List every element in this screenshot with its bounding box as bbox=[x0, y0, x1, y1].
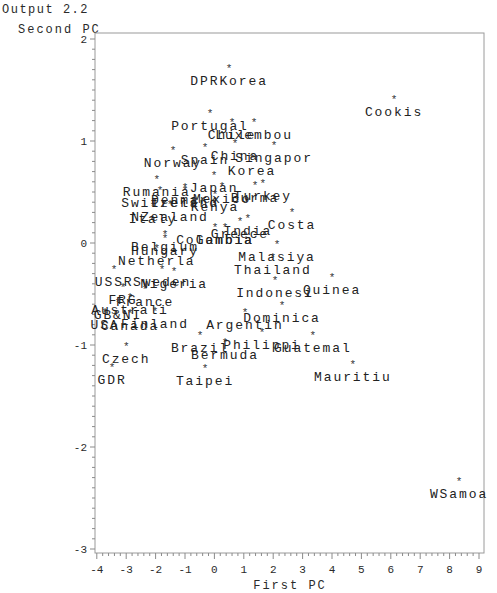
data-point: *Mauritiu bbox=[314, 359, 392, 385]
x-axis: -4-3-2-10123456789 bbox=[90, 553, 482, 576]
x-tick-label: 5 bbox=[358, 564, 365, 576]
x-tick-label: -1 bbox=[178, 564, 192, 576]
point-label: GDR bbox=[98, 373, 127, 388]
point-label: Bermuda bbox=[191, 348, 259, 363]
x-tick-label: -2 bbox=[149, 564, 162, 576]
y-axis-label: Second PC bbox=[18, 23, 101, 37]
x-tick-label: 8 bbox=[446, 564, 453, 576]
y-tick-label: -3 bbox=[74, 544, 87, 556]
point-label: Luxembou bbox=[215, 128, 293, 143]
x-tick-label: 3 bbox=[299, 564, 306, 576]
data-point: *Guatemal bbox=[274, 330, 352, 356]
y-tick-label: 2 bbox=[80, 34, 87, 46]
point-label: Guatemal bbox=[274, 341, 352, 356]
x-tick-label: 6 bbox=[387, 564, 394, 576]
data-point: *Indonesi bbox=[236, 275, 314, 301]
chart-title: Output 2.2 bbox=[2, 3, 89, 17]
data-point: *Nigeria bbox=[140, 266, 208, 292]
point-label: Argentin bbox=[206, 318, 284, 333]
point-label: WSamoa bbox=[430, 487, 488, 502]
y-axis: 210-1-2-3 bbox=[74, 34, 95, 556]
x-tick-label: 0 bbox=[211, 564, 218, 576]
data-point: *WSamoa bbox=[430, 476, 488, 502]
point-label: USSR bbox=[95, 275, 134, 290]
point-label: Taipei bbox=[176, 374, 234, 389]
point-label: DPRKorea bbox=[190, 74, 268, 89]
data-points: *DPRKorea*Cookis*Portugal*Chile*Luxembou… bbox=[90, 63, 488, 502]
x-tick-label: -3 bbox=[120, 564, 133, 576]
point-label: Netherla bbox=[118, 254, 196, 269]
x-tick-label: 1 bbox=[240, 564, 247, 576]
point-label: Italy bbox=[129, 212, 178, 227]
point-label: Mauritiu bbox=[314, 370, 392, 385]
y-tick-label: -2 bbox=[74, 442, 87, 454]
point-label: Norway bbox=[144, 156, 202, 171]
data-point: *Singapor bbox=[235, 140, 313, 166]
x-axis-label: First PC bbox=[253, 579, 327, 593]
point-label: Nigeria bbox=[140, 277, 208, 292]
point-label: Costa bbox=[268, 218, 317, 233]
x-tick-label: 4 bbox=[329, 564, 336, 576]
x-tick-label: 7 bbox=[417, 564, 424, 576]
data-point: *DPRKorea bbox=[190, 63, 268, 89]
point-label: Indonesi bbox=[236, 286, 314, 301]
point-label: Gambia bbox=[196, 233, 254, 248]
data-point: *Costa bbox=[268, 207, 317, 233]
x-tick-label: -4 bbox=[90, 564, 104, 576]
x-tick-label: 9 bbox=[476, 564, 483, 576]
point-label: Cookis bbox=[365, 105, 423, 120]
data-point: *Taipei bbox=[176, 363, 234, 389]
y-tick-label: -1 bbox=[74, 340, 88, 352]
point-label: Canada bbox=[101, 319, 159, 334]
data-point: *Norway bbox=[144, 145, 202, 171]
y-tick-label: 1 bbox=[80, 136, 87, 148]
point-label: Korea bbox=[228, 164, 277, 179]
scatter-chart: Output 2.2 Second PC First PC 210-1-2-3 … bbox=[0, 0, 497, 593]
x-tick-label: 2 bbox=[270, 564, 277, 576]
y-tick-label: 0 bbox=[80, 238, 87, 250]
data-point: *Cookis bbox=[365, 94, 423, 120]
